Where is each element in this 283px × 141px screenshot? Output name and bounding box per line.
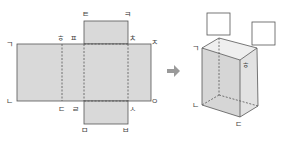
- arrow-icon: [167, 65, 180, 77]
- answer-box-2[interactable]: [252, 22, 275, 45]
- cuboid-net: ㅌ ㅋ ㄱ ㅎ ㅍ ㅊ ㅈ ㄴ ㄷ ㄹ ㅅ ㅇ ㅁ ㅂ: [6, 10, 158, 135]
- box-vertex-label-g: ㄱ: [192, 44, 199, 53]
- cuboid-3d: ㄱ ㅎ ㄴ ㄷ: [192, 13, 275, 129]
- vertex-label-h: ㅎ: [57, 34, 64, 43]
- vertex-label-n: ㄴ: [6, 97, 13, 106]
- net-top-face: [84, 21, 128, 44]
- box-vertex-label-n: ㄴ: [192, 101, 199, 110]
- vertex-label-k: ㅋ: [124, 10, 131, 19]
- vertex-label-j: ㅈ: [151, 38, 158, 47]
- vertex-label-r: ㄹ: [72, 105, 79, 114]
- box-vertex-label-d: ㄷ: [235, 120, 242, 129]
- vertex-label-o: ㅇ: [151, 97, 158, 106]
- vertex-label-d: ㄷ: [58, 105, 65, 114]
- vertex-label-m: ㅁ: [81, 126, 88, 135]
- vertex-label-b: ㅂ: [122, 126, 129, 135]
- answer-box-1[interactable]: [207, 13, 230, 35]
- vertex-label-ch: ㅊ: [129, 34, 136, 43]
- vertex-label-g: ㄱ: [6, 40, 13, 49]
- box-vertex-label-h: ㅎ: [242, 61, 249, 70]
- vertex-label-s: ㅅ: [129, 105, 136, 114]
- diagram-canvas: ㅌ ㅋ ㄱ ㅎ ㅍ ㅊ ㅈ ㄴ ㄷ ㄹ ㅅ ㅇ ㅁ ㅂ ㄱ ㅎ: [0, 0, 283, 141]
- vertex-label-p: ㅍ: [70, 34, 77, 43]
- vertex-label-t: ㅌ: [82, 10, 89, 19]
- net-bottom-face: [84, 101, 128, 124]
